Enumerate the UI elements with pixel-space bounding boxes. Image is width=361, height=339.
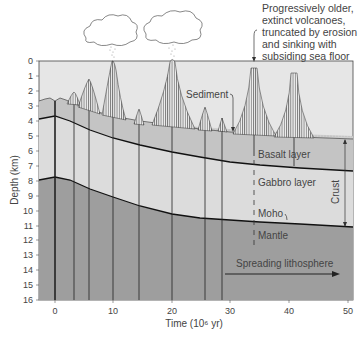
y-axis-label: Depth (km) bbox=[9, 155, 20, 204]
annotation-line-5: subsiding sea floor bbox=[262, 50, 357, 62]
x-axis-label: Time (10⁶ yr) bbox=[165, 318, 223, 329]
x-tick-10: 10 bbox=[108, 306, 118, 316]
annotation-line-1: Progressively older, bbox=[262, 2, 357, 14]
y-tick-3: 3 bbox=[28, 101, 33, 111]
cloud-1-icon bbox=[84, 15, 138, 46]
y-tick-6: 6 bbox=[28, 146, 33, 156]
annotation-line-4: and sinking with bbox=[262, 38, 357, 50]
cloud-2-icon bbox=[144, 11, 203, 44]
y-tick-9: 9 bbox=[28, 191, 33, 201]
y-tick-5: 5 bbox=[28, 131, 33, 141]
annotation-line-2: extinct volcanoes, bbox=[262, 14, 357, 26]
x-tick-20: 20 bbox=[167, 306, 177, 316]
y-tick-1: 1 bbox=[28, 71, 33, 81]
x-tick-0: 0 bbox=[52, 306, 57, 316]
x-tick-50: 50 bbox=[343, 306, 353, 316]
y-tick-4: 4 bbox=[28, 116, 33, 126]
annotation-pointer bbox=[254, 30, 257, 58]
x-tick-30: 30 bbox=[225, 306, 235, 316]
mantle-label: Mantle bbox=[258, 230, 288, 241]
y-tick-0: 0 bbox=[28, 56, 33, 66]
crust-label: Crust bbox=[330, 180, 341, 204]
annotation-line-3: truncated by erosion bbox=[262, 26, 357, 38]
x-axis-ticks bbox=[55, 300, 348, 303]
spreading-label: Spreading lithosphere bbox=[236, 258, 334, 269]
y-tick-10: 10 bbox=[23, 206, 33, 216]
y-tick-11: 11 bbox=[24, 221, 33, 231]
y-tick-12: 12 bbox=[23, 235, 33, 245]
moho-label: Moho bbox=[258, 208, 283, 219]
ash-plumes bbox=[109, 44, 175, 57]
y-tick-8: 8 bbox=[28, 176, 33, 186]
basalt-label: Basalt layer bbox=[258, 149, 311, 160]
y-axis-ticks bbox=[36, 61, 39, 300]
y-tick-15: 15 bbox=[23, 280, 33, 290]
gabbro-label: Gabbro layer bbox=[258, 177, 316, 188]
y-tick-13: 13 bbox=[23, 250, 33, 260]
sediment-label: Sediment bbox=[186, 89, 228, 100]
x-tick-40: 40 bbox=[284, 306, 294, 316]
annotation-text: Progressively older, extinct volcanoes, … bbox=[262, 2, 357, 62]
y-tick-14: 14 bbox=[23, 265, 33, 275]
y-tick-2: 2 bbox=[28, 86, 33, 96]
y-tick-7: 7 bbox=[28, 161, 33, 171]
y-tick-16: 16 bbox=[23, 295, 33, 305]
eruption-clouds bbox=[84, 11, 203, 46]
